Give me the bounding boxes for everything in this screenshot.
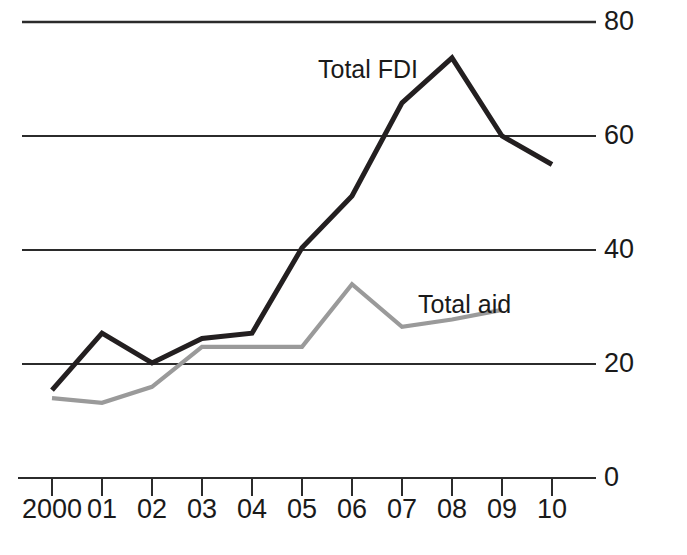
x-tick-label-03: 03 bbox=[180, 496, 224, 523]
x-tick-label-04: 04 bbox=[230, 496, 274, 523]
x-tick-label-06: 06 bbox=[330, 496, 374, 523]
y-tick-label-80: 80 bbox=[604, 8, 634, 35]
line-chart: 80 60 40 20 0 2000 01 02 03 04 05 06 07 … bbox=[0, 0, 687, 555]
x-tick-label-02: 02 bbox=[130, 496, 174, 523]
y-tick-label-20: 20 bbox=[604, 350, 634, 377]
series-line-total-fdi bbox=[52, 58, 552, 390]
y-tick-label-0: 0 bbox=[604, 464, 619, 491]
x-tick-label-10: 10 bbox=[530, 496, 574, 523]
y-tick-label-40: 40 bbox=[604, 236, 634, 263]
x-tick-label-09: 09 bbox=[480, 496, 524, 523]
x-tick-label-08: 08 bbox=[430, 496, 474, 523]
x-tick-label-01: 01 bbox=[80, 496, 124, 523]
chart-plot-area bbox=[0, 0, 687, 555]
x-tick-label-05: 05 bbox=[280, 496, 324, 523]
y-tick-label-60: 60 bbox=[604, 122, 634, 149]
series-annotation-total-fdi: Total FDI bbox=[318, 57, 418, 82]
series-annotation-total-aid: Total aid bbox=[418, 292, 511, 317]
x-tick-label-07: 07 bbox=[380, 496, 424, 523]
